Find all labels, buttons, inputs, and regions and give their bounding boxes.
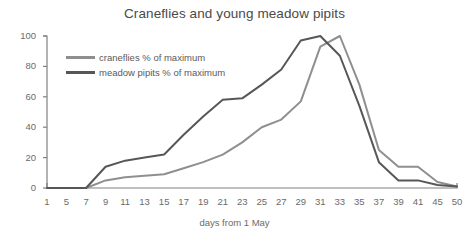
x-axis-tick-label: 21 <box>217 196 228 207</box>
legend-label-meadow-pipits: meadow pipits % of maximum <box>99 67 225 78</box>
x-axis-tick-label: 37 <box>374 196 385 207</box>
legend-label-craneflies: craneflies % of maximum <box>99 52 205 63</box>
y-axis-tick-label: 100 <box>10 30 36 41</box>
y-axis-tick-label: 80 <box>10 60 36 71</box>
legend-item-craneflies: craneflies % of maximum <box>66 50 225 65</box>
y-axis-tick-label: 60 <box>10 91 36 102</box>
x-axis-tick-label: 39 <box>393 196 404 207</box>
x-axis-tick-label: 19 <box>198 196 209 207</box>
x-axis-tick-label: 13 <box>139 196 150 207</box>
x-axis-tick-label: 1 <box>44 196 49 207</box>
x-axis-tick-label: 35 <box>354 196 365 207</box>
x-axis-tick-label: 9 <box>103 196 108 207</box>
legend-item-meadow-pipits: meadow pipits % of maximum <box>66 65 225 80</box>
x-axis-tick-label: 23 <box>237 196 248 207</box>
x-axis-tick-label: 25 <box>256 196 267 207</box>
y-axis-tick-label: 40 <box>10 121 36 132</box>
x-axis-tick-label: 7 <box>83 196 88 207</box>
y-axis-tick-label: 20 <box>10 152 36 163</box>
legend-swatch-craneflies <box>66 56 95 59</box>
x-axis-tick-label: 31 <box>315 196 326 207</box>
x-axis-tick-label: 15 <box>159 196 170 207</box>
x-axis-tick-label: 27 <box>276 196 287 207</box>
legend-swatch-meadow-pipits <box>66 71 95 74</box>
x-axis-title: days from 1 May <box>0 217 469 228</box>
x-axis-tick-label: 45 <box>432 196 443 207</box>
chart-container: Craneflies and young meadow pipits 02040… <box>0 0 469 242</box>
y-axis-line <box>43 36 47 188</box>
y-axis-tick-label: 0 <box>10 182 36 193</box>
x-axis-tick-label: 41 <box>413 196 424 207</box>
x-axis-tick-label: 29 <box>296 196 307 207</box>
chart-legend: craneflies % of maximum meadow pipits % … <box>66 50 225 80</box>
x-axis-tick-label: 17 <box>178 196 189 207</box>
x-axis-tick-label: 33 <box>335 196 346 207</box>
x-axis-line <box>47 183 457 188</box>
x-axis-tick-label: 50 <box>452 196 463 207</box>
x-axis-tick-label: 11 <box>120 196 130 207</box>
x-axis-tick-label: 5 <box>64 196 69 207</box>
